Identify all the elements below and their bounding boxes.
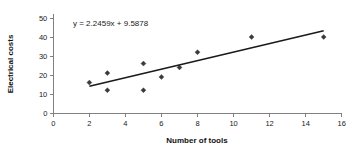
x-axis-title: Number of tools: [166, 136, 228, 145]
x-tick-label: 0: [51, 119, 55, 128]
data-point-marker: [141, 61, 146, 66]
x-tick-label: 16: [338, 119, 346, 128]
y-tick-label: 40: [39, 33, 47, 42]
data-point-marker: [249, 35, 254, 40]
x-tick-label: 6: [159, 119, 163, 128]
x-axis-ticks: 0246810121416: [51, 113, 346, 128]
x-tick-label: 8: [195, 119, 199, 128]
regression-equation-label: y = 2.2459x + 9.5878: [73, 19, 149, 28]
data-point-marker: [87, 80, 92, 85]
x-tick-label: 14: [301, 119, 309, 128]
trendline: [89, 31, 323, 86]
x-tick-label: 12: [265, 119, 273, 128]
data-point-marker: [105, 88, 110, 93]
y-axis-title: Electrical costs: [6, 34, 15, 93]
y-tick-label: 0: [43, 109, 47, 118]
data-point-marker: [321, 35, 326, 40]
y-axis-ticks: 01020304050: [39, 14, 53, 118]
data-point-marker: [159, 74, 164, 79]
chart-canvas: 01020304050 0246810121416 y = 2.2459x + …: [0, 0, 363, 157]
data-points: [87, 35, 326, 93]
y-tick-label: 20: [39, 71, 47, 80]
data-point-marker: [195, 50, 200, 55]
y-tick-label: 50: [39, 14, 47, 23]
x-tick-label: 4: [123, 119, 127, 128]
data-point-marker: [105, 71, 110, 76]
x-tick-label: 2: [87, 119, 91, 128]
y-tick-label: 10: [39, 90, 47, 99]
y-tick-label: 30: [39, 52, 47, 61]
scatter-chart: 01020304050 0246810121416 y = 2.2459x + …: [0, 0, 363, 157]
x-tick-label: 10: [229, 119, 237, 128]
data-point-marker: [141, 88, 146, 93]
